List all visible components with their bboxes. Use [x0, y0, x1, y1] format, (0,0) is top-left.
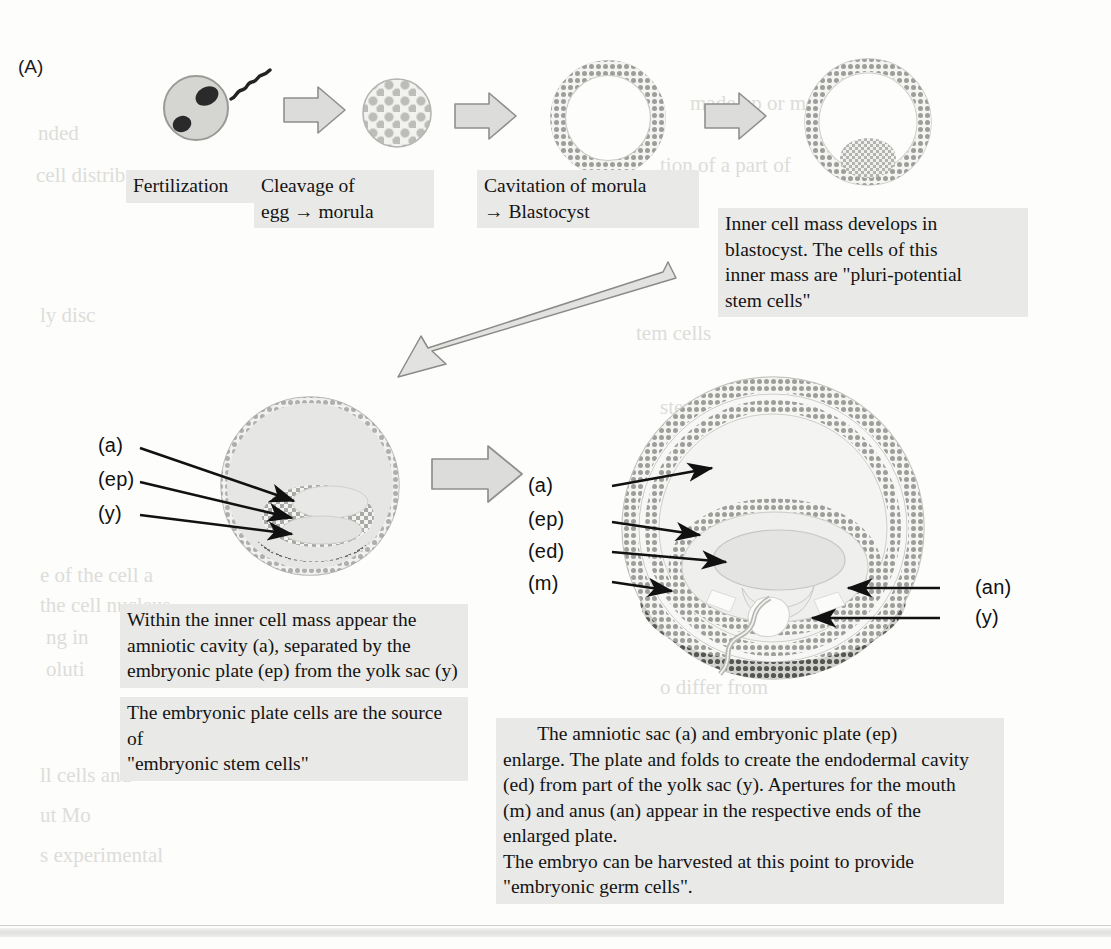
bleed-text: cell distrib: [36, 160, 125, 190]
bleed-text: stem cells: [660, 392, 743, 422]
block-arrow-icon: [705, 93, 766, 139]
trophoblast-cap: [256, 540, 372, 562]
bleed-text: e of the cell a: [40, 560, 153, 590]
block-arrow-icon: [432, 446, 522, 502]
label-yolk-sac: (y): [975, 606, 999, 629]
stage-fertilized-egg: [164, 76, 228, 140]
bleed-text: nded: [38, 118, 79, 148]
caption-left-2: The embryonic plate cells are the source…: [120, 697, 468, 781]
stage-blastocyst-with-icm: [805, 59, 931, 185]
inner-cell-mass: [840, 138, 896, 178]
stage-blastocyst: [551, 61, 665, 175]
label-embryonic-plate: (ep): [98, 468, 134, 491]
inner-cell-mass: [262, 485, 374, 547]
bleed-text: d within mixed exp: [672, 484, 835, 514]
embryo-late-stage: [622, 377, 924, 680]
connecting-stalk: [720, 598, 770, 674]
label-anus: (an): [975, 576, 1011, 599]
yolk-sac: [748, 597, 789, 637]
embryonic-plate: [713, 530, 845, 590]
panel-letter: (A): [18, 56, 43, 78]
bleed-text: tem cells: [636, 318, 711, 348]
caption-left-1: Within the inner cell mass appear the am…: [120, 604, 468, 688]
amniotic-cavity: [292, 486, 368, 518]
page-divider: [0, 925, 1111, 926]
bleed-text: ut Mo: [40, 800, 91, 830]
trophoblast-cap: [640, 600, 906, 680]
leader-lines-right: [612, 468, 940, 618]
bleed-text: o differ from: [660, 672, 768, 702]
caption-inner-cell-mass: Inner cell mass develops in blastocyst. …: [718, 208, 1028, 317]
label-endodermal-cavity: (ed): [528, 540, 564, 563]
anus-aperture: [814, 592, 845, 614]
caption-right: The amniotic sac (a) and embryonic plate…: [496, 718, 1004, 904]
embryo-early-stage: [221, 397, 399, 575]
label-amniotic-sac: (a): [528, 474, 553, 497]
label-amniotic-cavity: (a): [98, 434, 123, 457]
bleed-text: tion of a part of: [676, 452, 807, 482]
bleed-text: made up or more: [690, 88, 833, 118]
amniotic-sac: [682, 512, 868, 622]
leader-lines-left: [140, 448, 294, 534]
long-diagonal-arrow-icon: [398, 262, 676, 377]
bleed-text: ll cells and: [40, 760, 131, 790]
bleed-text: ly disc: [40, 300, 95, 330]
label-yolk-sac: (y): [98, 502, 122, 525]
block-arrow-icon: [284, 87, 345, 133]
caption-cleavage: Cleavage of egg → morula: [254, 170, 434, 228]
sperm-icon: [231, 70, 270, 99]
page-divider-shadow: [0, 928, 1111, 937]
bleed-text: ng in: [46, 622, 89, 652]
diagram-canvas: nded made up or more cell distrib tion o…: [0, 0, 1111, 949]
caption-fertilization: Fertilization: [126, 170, 258, 203]
stage-morula: [363, 79, 431, 147]
bleed-text: s experimental: [40, 840, 163, 870]
label-mouth: (m): [528, 572, 559, 595]
bleed-text: oluti: [46, 654, 85, 684]
endodermal-cavity: [742, 586, 814, 620]
yolk-sac: [282, 516, 362, 544]
caption-cavitation: Cavitation of morula → Blastocyst: [477, 170, 699, 228]
mouth-aperture: [706, 590, 736, 612]
label-embryonic-plate: (ep): [528, 508, 564, 531]
bleed-text: made up or more: [676, 420, 819, 450]
block-arrow-icon: [455, 93, 516, 139]
